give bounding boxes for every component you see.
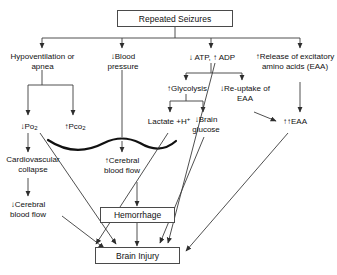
node-cardiovascular-collapse[interactable]: Cardiovascular collapse [0, 155, 66, 174]
connector-layer [0, 0, 337, 275]
repeated-seizures-label: Repeated Seizures [139, 14, 211, 24]
brain-glucose-label: ↓Brain glucose [192, 115, 220, 134]
cardiovascular-collapse-label: Cardiovascular collapse [6, 155, 59, 174]
reuptake-eaa-label: ↓Re-uptake of EAA [220, 84, 270, 103]
node-reuptake-eaa[interactable]: ↓Re-uptake of EAA [219, 84, 271, 103]
node-blood-pressure[interactable]: ↓Blood pressure [95, 52, 151, 71]
blood-pressure-label: ↓Blood pressure [107, 52, 138, 71]
glycolysis-label: ↑Glycolysis [167, 84, 207, 93]
diagram-canvas: Repeated Seizures Hypoventilation or apn… [0, 0, 337, 275]
node-cerebral-blood-flow-down[interactable]: ↓Cerebral blood flow [0, 200, 56, 219]
po2-label: ↓Po [20, 122, 34, 131]
cerebral-blood-flow-up-label: ↑Cerebral blood flow [104, 156, 140, 175]
node-cerebral-blood-flow-up[interactable]: ↑Cerebral blood flow [95, 156, 149, 175]
node-eaa-double[interactable]: ↑↑EAA [272, 117, 318, 127]
po2-subscript: 2 [34, 125, 37, 131]
pco2-subscript: 2 [82, 125, 85, 131]
hemorrhage-label: Hemorrhage [114, 210, 161, 220]
node-release-eaa[interactable]: ↑Release of excitatory amino acids (EAA) [253, 52, 337, 71]
node-po2[interactable]: ↓Po2 [8, 122, 50, 134]
node-brain-injury[interactable]: Brain Injury [95, 247, 180, 264]
node-atp-adp[interactable]: ↓ ATP, ↑ ADP [178, 53, 246, 63]
brain-injury-label: Brain Injury [116, 251, 159, 261]
release-eaa-label: ↑Release of excitatory amino acids (EAA) [256, 52, 335, 71]
node-hemorrhage[interactable]: Hemorrhage [100, 207, 175, 223]
node-repeated-seizures[interactable]: Repeated Seizures [117, 10, 233, 27]
node-glycolysis[interactable]: ↑Glycolysis [160, 84, 214, 94]
cerebral-blood-flow-down-label: ↓Cerebral blood flow [10, 200, 46, 219]
node-pco2[interactable]: ↑Pco2 [52, 122, 98, 134]
hypoventilation-label: Hypoventilation or apnea [10, 52, 74, 71]
eaa-double-label: ↑↑EAA [283, 117, 307, 126]
pco2-label: ↑Pco [64, 122, 82, 131]
node-brain-glucose[interactable]: ↓Brain glucose [185, 115, 227, 134]
atp-adp-label: ↓ ATP, ↑ ADP [189, 53, 235, 62]
lactate-label: Lactate +H [148, 117, 187, 126]
node-hypoventilation[interactable]: Hypoventilation or apnea [0, 52, 85, 71]
